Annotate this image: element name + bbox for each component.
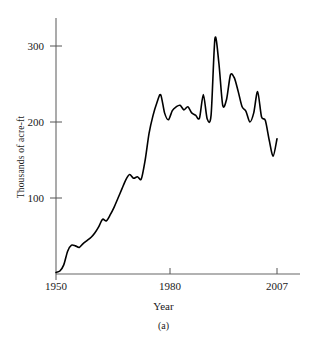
line-chart-plot: 300 200 100 1950 1980 2007 — [0, 0, 327, 341]
y-axis-title: Thousands of acre-ft — [16, 92, 26, 222]
y-tick-label-100: 100 — [28, 192, 45, 204]
x-tick-label-1980: 1980 — [159, 280, 182, 292]
figure-panel: 300 200 100 1950 1980 2007 Thousands of … — [0, 0, 327, 341]
figure-subcaption: (a) — [0, 320, 327, 331]
y-tick-label-300: 300 — [28, 40, 45, 52]
y-tick-label-200: 200 — [28, 116, 45, 128]
x-axis-title: Year — [0, 300, 327, 312]
x-tick-label-2007: 2007 — [266, 280, 289, 292]
x-tick-label-1950: 1950 — [45, 280, 68, 292]
